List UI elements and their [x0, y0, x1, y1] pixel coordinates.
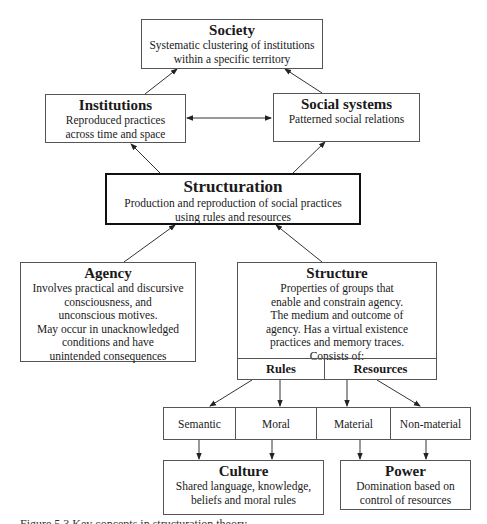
structure-box: Structure Properties of groups that enab…	[237, 262, 437, 380]
power-description: Domination based on control of resources	[341, 480, 470, 507]
institutions-box: Institutions Reproduced practices across…	[45, 94, 186, 143]
type-moral: Moral	[235, 407, 317, 440]
institutions-title: Institutions	[46, 97, 185, 114]
type-non-material: Non-material	[390, 407, 471, 440]
social-systems-description: Patterned social relations	[274, 113, 419, 127]
culture-description: Shared language, knowledge, beliefs and …	[164, 480, 323, 507]
rules-cell: Rules	[237, 358, 325, 380]
structuration-description: Production and reproduction of social pr…	[107, 197, 359, 224]
rule-resource-types-row: Semantic Moral Material Non-material	[163, 407, 471, 440]
power-title: Power	[341, 463, 470, 480]
structure-title: Structure	[238, 265, 436, 282]
social-systems-title: Social systems	[274, 96, 419, 113]
culture-box: Culture Shared language, knowledge, beli…	[163, 460, 324, 515]
type-semantic: Semantic	[163, 407, 236, 440]
structure-description: Properties of groups that enable and con…	[238, 282, 436, 363]
agency-title: Agency	[21, 265, 195, 282]
society-title: Society	[142, 22, 322, 39]
social-systems-box: Social systems Patterned social relation…	[273, 93, 420, 142]
figure-caption: Figure 5.3 Key concepts in structuration…	[20, 516, 247, 524]
structuration-title: Structuration	[107, 177, 359, 197]
agency-box: Agency Involves practical and discursive…	[20, 262, 196, 362]
culture-title: Culture	[164, 463, 323, 480]
agency-description: Involves practical and discursive consci…	[21, 282, 195, 363]
institutions-description: Reproduced practices across time and spa…	[46, 114, 185, 141]
structuration-box: Structuration Production and reproductio…	[105, 173, 361, 225]
type-material: Material	[316, 407, 391, 440]
society-description: Systematic clustering of institutions wi…	[142, 39, 322, 66]
resources-cell: Resources	[324, 358, 437, 380]
power-box: Power Domination based on control of res…	[340, 460, 471, 510]
society-box: Society Systematic clustering of institu…	[141, 19, 323, 69]
